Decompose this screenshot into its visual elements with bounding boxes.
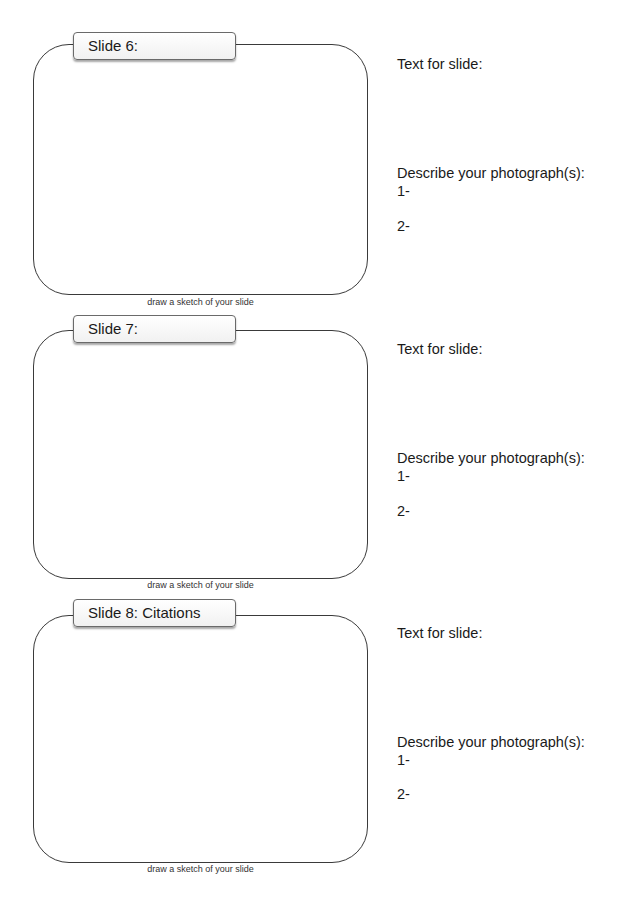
photo-item-1: 1- — [397, 468, 410, 484]
photo-item-1: 1- — [397, 752, 410, 768]
photo-item-2: 2- — [397, 786, 410, 802]
photo-item-1: 1- — [397, 183, 410, 199]
slide-label: Slide 6: — [73, 32, 236, 60]
slide-label: Slide 8: Citations — [73, 599, 236, 627]
sketch-area[interactable] — [33, 330, 368, 579]
photo-item-2: 2- — [397, 503, 410, 519]
describe-photographs-label: Describe your photograph(s): — [397, 450, 585, 466]
slide-label: Slide 7: — [73, 315, 236, 343]
describe-photographs-label: Describe your photograph(s): — [397, 734, 585, 750]
sketch-area[interactable] — [33, 44, 368, 295]
photo-item-2: 2- — [397, 218, 410, 234]
text-for-slide-label: Text for slide: — [397, 625, 482, 641]
sketch-caption: draw a sketch of your slide — [33, 864, 368, 874]
text-for-slide-label: Text for slide: — [397, 56, 482, 72]
sketch-caption: draw a sketch of your slide — [33, 297, 368, 307]
describe-photographs-label: Describe your photograph(s): — [397, 165, 585, 181]
sketch-caption: draw a sketch of your slide — [33, 580, 368, 590]
sketch-area[interactable] — [33, 615, 368, 863]
text-for-slide-label: Text for slide: — [397, 341, 482, 357]
